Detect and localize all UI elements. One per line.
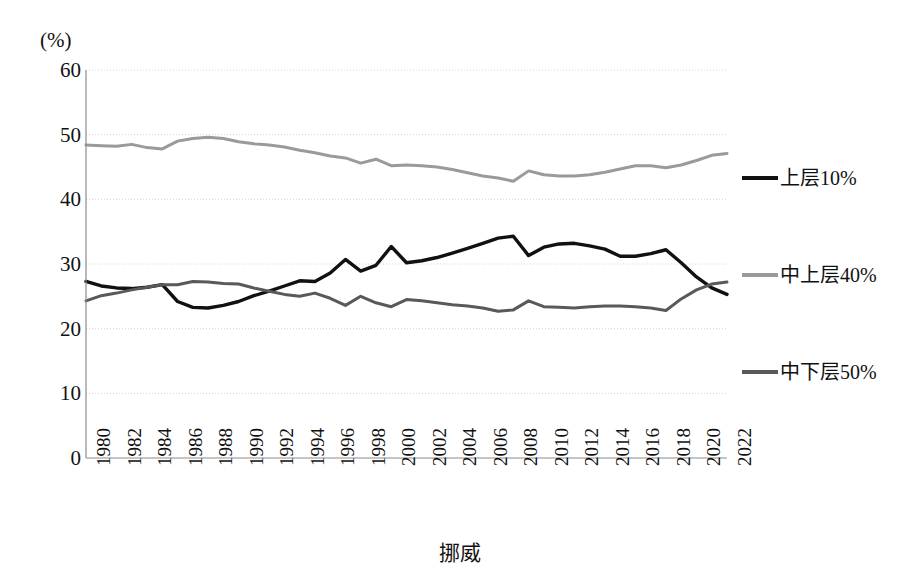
x-axis-tick: 2008 [520, 428, 542, 466]
chart-title: 挪威 [0, 536, 919, 566]
series-group [86, 137, 727, 311]
chart-container: (%) 6050403020100 1980198219841986198819… [0, 0, 919, 575]
x-axis-tick: 1980 [93, 428, 115, 466]
x-axis-tick: 1992 [276, 428, 298, 466]
x-axis-tick: 1990 [246, 428, 268, 466]
x-axis-tick: 1982 [124, 428, 146, 466]
x-axis-tick: 2020 [703, 428, 725, 466]
legend-swatch-icon [742, 176, 778, 180]
x-axis-tick: 1996 [337, 428, 359, 466]
legend-label: 中下层50% [780, 362, 877, 382]
legend-label: 中上层40% [780, 265, 877, 285]
series-line [86, 137, 727, 181]
x-axis-tick: 2016 [642, 428, 664, 466]
x-axis-tick: 1984 [154, 428, 176, 466]
x-axis-tick: 2022 [734, 428, 756, 466]
x-axis-tick: 2010 [551, 428, 573, 466]
x-axis-tick: 2004 [459, 428, 481, 466]
legend-swatch-icon [742, 370, 778, 374]
x-axis-tick: 2002 [429, 428, 451, 466]
plot-area [0, 0, 919, 575]
legend-item[interactable]: 中下层50% [742, 362, 877, 382]
x-axis-tick: 1986 [185, 428, 207, 466]
x-axis-tick: 2000 [398, 428, 420, 466]
legend-item[interactable]: 中上层40% [742, 265, 877, 285]
series-line [86, 236, 727, 308]
legend-item[interactable]: 上层10% [742, 168, 857, 188]
x-axis-tick: 1998 [368, 428, 390, 466]
x-axis-tick: 2014 [612, 428, 634, 466]
x-axis-tick: 1988 [215, 428, 237, 466]
x-axis-tick: 2006 [490, 428, 512, 466]
series-line [86, 281, 727, 311]
legend-label: 上层10% [780, 168, 857, 188]
x-axis-tick: 2018 [673, 428, 695, 466]
x-axis-tick: 2012 [581, 428, 603, 466]
legend-swatch-icon [742, 273, 778, 277]
x-axis-tick: 1994 [307, 428, 329, 466]
